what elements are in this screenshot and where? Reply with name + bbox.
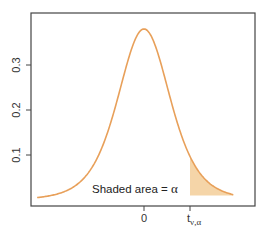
y-tick-label: 0.3 (10, 57, 22, 72)
x-tick-subscript: ν,α (190, 217, 201, 227)
plot-frame (31, 13, 255, 206)
alpha-symbol: α (171, 181, 178, 196)
x-axis: 0tν,α (141, 206, 201, 227)
x-tick-label: tν,α (187, 212, 201, 227)
y-tick-label: 0.2 (10, 102, 22, 117)
shaded-tail-area (190, 156, 233, 195)
t-distribution-chart: 0.10.20.3 0tν,α Shaded area = α (0, 0, 272, 235)
annotation-text: Shaded area = (92, 183, 171, 195)
y-tick-label: 0.1 (10, 147, 22, 162)
shaded-area-annotation: Shaded area = α (92, 181, 178, 196)
x-tick-label: 0 (141, 212, 147, 224)
density-curve (37, 29, 233, 198)
y-axis: 0.10.20.3 (10, 57, 31, 162)
